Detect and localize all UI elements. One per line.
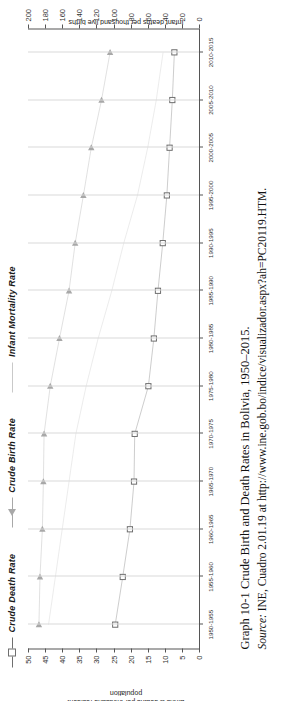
x-tick — [199, 146, 203, 147]
x-tick — [199, 337, 203, 338]
y2-tick — [165, 24, 166, 28]
y2-tick-label: 100 — [109, 8, 118, 21]
y2-tick-label: 140 — [75, 8, 84, 21]
x-tick-label: 1950-1955 — [207, 609, 214, 639]
y-tick — [165, 648, 166, 652]
source-label: Source: — [256, 614, 268, 649]
legend-label: Infant Mortality Rate — [7, 266, 17, 357]
y-tick-label: 40 — [58, 655, 67, 663]
y-tick-label: 5 — [177, 655, 186, 659]
y-tick-label: 30 — [92, 655, 101, 663]
gridline — [28, 432, 199, 433]
x-tick-label: 1985-1990 — [207, 276, 214, 306]
y2-tick-label: 160 — [58, 8, 67, 21]
y-tick-label: 15 — [143, 655, 152, 663]
legend-item-crude-death-rate: Crude Death Rate — [7, 553, 17, 667]
figure-page: Crude Death Rate Crude Birth Rate Infant… — [0, 0, 292, 701]
y-tick-label: 10 — [160, 655, 169, 663]
figure-caption: Graph 10-1 Crude Birth and Death Rates i… — [236, 9, 271, 649]
legend-item-crude-birth-rate: Crude Birth Rate — [7, 418, 17, 528]
y2-tick — [148, 24, 149, 28]
gridline — [28, 242, 199, 243]
caption-text: Crude Birth and Death Rates in Bolivia, … — [238, 326, 252, 589]
y2-tick — [131, 24, 132, 28]
gridline — [28, 289, 199, 290]
gridline — [28, 146, 199, 147]
x-tick-label: 1995-2000 — [207, 180, 214, 210]
y2-tick-label: 200 — [24, 8, 33, 21]
chart-area: Births & deaths per thousand resident po… — [22, 0, 230, 701]
y-tick-label: 45 — [41, 655, 50, 663]
y2-tick — [114, 24, 115, 28]
y2-tick — [96, 24, 97, 28]
x-tick-label: 1980-1985 — [207, 323, 214, 353]
chart-legend: Crude Death Rate Crude Birth Rate Infant… — [4, 0, 20, 701]
x-tick — [199, 623, 203, 624]
x-tick-label: 2005-2010 — [207, 85, 214, 115]
y2-tick-label: 80 — [126, 13, 135, 21]
legend-label: Crude Death Rate — [7, 553, 17, 632]
y2-tick-label: 60 — [143, 13, 152, 21]
x-tick — [199, 480, 203, 481]
gridline — [28, 194, 199, 195]
legend-item-infant-mortality-rate: Infant Mortality Rate — [7, 266, 17, 392]
x-tick-label: 1970-1975 — [207, 419, 214, 449]
y2-tick — [199, 24, 200, 28]
source-line: Source: INE, Cuadro 2.01.19 at http://ww… — [254, 9, 271, 649]
y-tick — [114, 648, 115, 652]
x-tick-label: 1975-1980 — [207, 371, 214, 401]
y2-tick — [182, 24, 183, 28]
y-tick — [131, 648, 132, 652]
y-tick-label: 0 — [195, 655, 204, 659]
caption-line: Graph 10-1 Crude Birth and Death Rates i… — [236, 9, 254, 649]
x-tick — [199, 432, 203, 433]
y2-tick — [62, 24, 63, 28]
y-tick-label: 50 — [24, 655, 33, 663]
left-axis-title: Births & deaths per thousand resident po… — [61, 688, 191, 701]
y2-tick-label: 180 — [41, 8, 50, 21]
y-tick — [96, 648, 97, 652]
source-text: INE, Cuadro 2.01.19 at http://www.ine.go… — [256, 187, 268, 610]
x-tick — [199, 99, 203, 100]
plain-line-icon — [7, 362, 17, 392]
y2-tick-label: 120 — [92, 8, 101, 21]
legend-label: Crude Birth Rate — [7, 418, 17, 493]
x-tick-label: 1960-1965 — [207, 514, 214, 544]
y2-tick — [45, 24, 46, 28]
gridline — [28, 528, 199, 529]
x-tick-label: 1955-1960 — [207, 562, 214, 592]
x-tick-label: 1965-1970 — [207, 466, 214, 496]
gridline — [28, 575, 199, 576]
gridline — [28, 99, 199, 100]
plot-canvas: 1950-19551955-19601960-19651965-19701970… — [28, 28, 200, 649]
x-tick — [199, 289, 203, 290]
gridline — [28, 51, 199, 52]
gridline — [28, 623, 199, 624]
gridline — [28, 337, 199, 338]
x-tick-label: 2000-2005 — [207, 132, 214, 162]
x-tick — [199, 528, 203, 529]
y2-tick-label: 0 — [195, 17, 204, 21]
y2-tick-label: 40 — [160, 13, 169, 21]
y2-tick — [28, 24, 29, 28]
caption-label: Graph 10-1 — [238, 592, 252, 649]
x-tick-label: 2010-2015 — [207, 37, 214, 67]
y-tick — [79, 648, 80, 652]
triangle-marker-icon — [7, 497, 17, 527]
y-tick — [199, 648, 200, 652]
x-tick — [199, 194, 203, 195]
y2-tick-label: 20 — [177, 13, 186, 21]
x-tick-label: 1990-1995 — [207, 228, 214, 258]
x-tick — [199, 575, 203, 576]
y-tick — [62, 648, 63, 652]
y-tick-label: 35 — [75, 655, 84, 663]
square-marker-icon — [7, 637, 17, 667]
x-tick — [199, 242, 203, 243]
y2-tick — [79, 24, 80, 28]
x-tick — [199, 385, 203, 386]
gridline — [28, 385, 199, 386]
rotated-figure-stage: Crude Death Rate Crude Birth Rate Infant… — [0, 0, 292, 701]
x-tick — [199, 51, 203, 52]
y-tick — [182, 648, 183, 652]
y-tick — [28, 648, 29, 652]
